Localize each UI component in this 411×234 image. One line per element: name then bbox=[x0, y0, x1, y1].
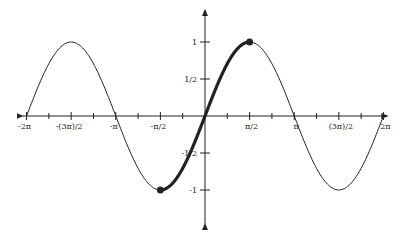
y-tick-label: 1 bbox=[192, 38, 197, 47]
y-tick-label: -1 bbox=[189, 186, 197, 195]
sine-plot: -2π-(3π)/2-π-π/2π/2π(3π)/22π11/2-1/2-1 bbox=[0, 0, 411, 234]
x-tick-label: (3π)/2 bbox=[329, 122, 353, 131]
y-tick-label: 1/2 bbox=[184, 75, 197, 84]
x-tick-label: -π bbox=[110, 122, 118, 131]
endpoint-marker bbox=[157, 187, 164, 194]
x-tick-label: -2π bbox=[18, 122, 31, 131]
endpoint-marker bbox=[246, 39, 253, 46]
x-tick-label: 2π bbox=[380, 122, 390, 131]
x-tick-label: -(3π)/2 bbox=[56, 122, 83, 131]
x-tick-label: π/2 bbox=[245, 122, 258, 131]
x-tick-label: -π/2 bbox=[151, 122, 167, 131]
